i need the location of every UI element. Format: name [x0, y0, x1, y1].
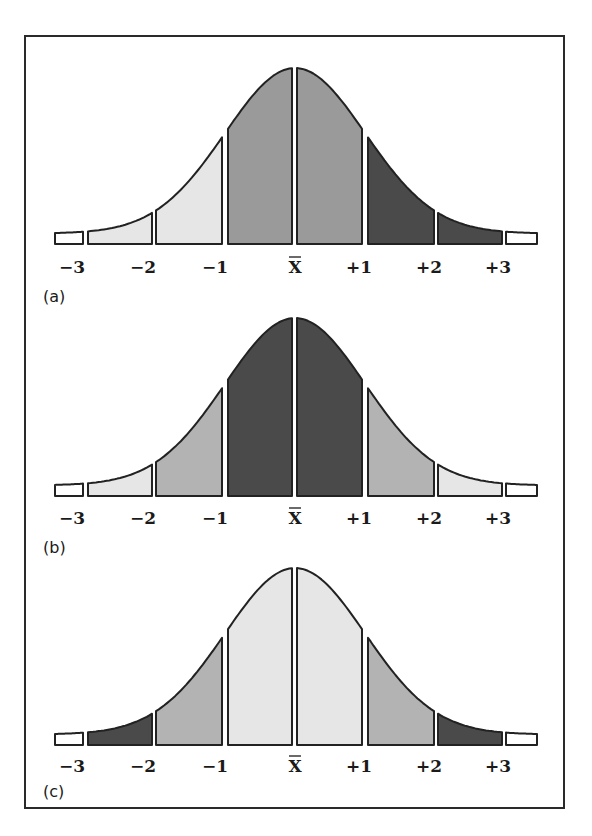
sd-tick-label: +1: [346, 508, 372, 528]
sd-tick-label: +3: [485, 756, 511, 776]
sd-tick-label: −3: [59, 508, 85, 528]
curve-segment: [55, 232, 83, 244]
curve-segment: [368, 137, 434, 244]
panel-c: −3−2−1X+1+2+3(c): [43, 568, 537, 801]
curve-segment: [438, 714, 502, 745]
curve-segment: [368, 638, 434, 745]
curve-segment: [228, 68, 292, 244]
sd-tick-label: −1: [202, 756, 228, 776]
curve-segment: [506, 484, 537, 497]
sd-tick-label: +2: [416, 257, 442, 277]
curve-segment: [156, 388, 222, 496]
curve-segment: [506, 232, 537, 244]
curve-segment: [88, 213, 152, 244]
sd-tick-label: −2: [130, 756, 156, 776]
sd-tick-label: +1: [346, 756, 372, 776]
curve-segment: [297, 68, 362, 244]
curve-segment: [156, 638, 222, 745]
curve-segment: [438, 213, 502, 244]
curve-segment: [228, 568, 292, 745]
curve-segment: [297, 318, 362, 496]
mean-label: X: [288, 756, 302, 776]
sd-tick-label: −3: [59, 257, 85, 277]
curve-segment: [506, 733, 537, 745]
curve-segment: [228, 318, 292, 496]
curve-segment: [88, 465, 152, 496]
sd-tick-label: −2: [130, 508, 156, 528]
curve-segment: [368, 388, 434, 496]
curve-segment: [297, 568, 362, 745]
sd-tick-label: +1: [346, 257, 372, 277]
panel-label: (a): [43, 287, 65, 306]
sd-tick-label: +2: [416, 508, 442, 528]
sd-tick-label: −1: [202, 508, 228, 528]
sd-tick-label: +3: [485, 257, 511, 277]
panel-a: −3−2−1X+1+2+3(a): [43, 68, 537, 306]
sd-tick-label: +2: [416, 756, 442, 776]
curve-segment: [55, 733, 83, 745]
mean-label: X: [288, 508, 302, 528]
curve-segment: [55, 484, 83, 496]
sd-tick-label: −3: [59, 756, 85, 776]
sd-tick-label: +3: [485, 508, 511, 528]
sd-tick-label: −2: [130, 257, 156, 277]
mean-label: X: [288, 257, 302, 277]
panel-b: −3−2−1X+1+2+3(b): [43, 318, 537, 557]
sd-tick-label: −1: [202, 257, 228, 277]
curve-segment: [156, 137, 222, 244]
curve-segment: [88, 714, 152, 745]
panel-label: (b): [43, 538, 66, 557]
normal-curves-figure: −3−2−1X+1+2+3(a)−3−2−1X+1+2+3(b)−3−2−1X+…: [0, 0, 592, 836]
curve-segment: [438, 465, 502, 496]
panel-label: (c): [43, 782, 64, 801]
